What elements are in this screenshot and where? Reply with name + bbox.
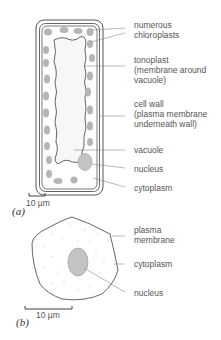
- label-cell-wall: cell wall (plasma membrane underneath wa…: [134, 99, 207, 129]
- cell-diagram: [0, 0, 221, 340]
- plant-cell: [29, 20, 125, 196]
- nucleus: [78, 154, 92, 171]
- panel-letter-a: (a): [12, 205, 25, 217]
- scale-bar-b: [25, 306, 72, 309]
- scale-label-b: 10 µm: [36, 310, 60, 320]
- label-chloroplasts: numerous chloroplasts: [134, 20, 179, 40]
- nucleus-b: [68, 248, 88, 276]
- animal-cell: [25, 217, 125, 309]
- label-plasma-membrane: plasma membrane: [134, 225, 175, 245]
- label-nucleus-a: nucleus: [134, 164, 163, 174]
- scale-label-a: 10 µm: [26, 198, 50, 208]
- label-tonoplast: tonoplast (membrane around vacuole): [134, 55, 206, 85]
- vacuole: [54, 37, 86, 164]
- label-nucleus-b: nucleus: [134, 288, 163, 298]
- label-cytoplasm-a: cytoplasm: [134, 183, 172, 193]
- panel-letter-b: (b): [16, 316, 29, 328]
- label-vacuole: vacuole: [134, 145, 163, 155]
- label-cytoplasm-b: cytoplasm: [134, 259, 172, 269]
